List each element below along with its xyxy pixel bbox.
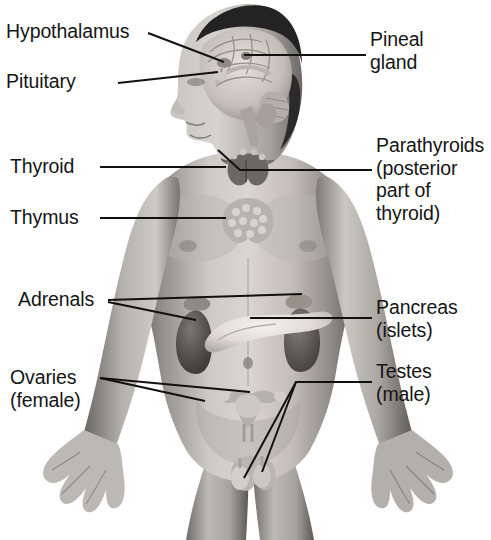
label-thyroid: Thyroid bbox=[10, 155, 74, 178]
label-testes: Testes (male) bbox=[376, 360, 432, 405]
label-pineal-gland: Pineal gland bbox=[370, 28, 424, 73]
label-ovaries: Ovaries (female) bbox=[10, 366, 81, 411]
leader-ovaries-branch-left bbox=[100, 378, 205, 401]
label-pancreas: Pancreas (islets) bbox=[376, 296, 458, 341]
leader-pituitary bbox=[118, 72, 218, 83]
leader-testes-branch-right bbox=[262, 382, 296, 472]
leader-adrenals-branch-left bbox=[108, 302, 196, 320]
label-parathyroids: Parathyroids (posterior part of thyroid) bbox=[376, 134, 484, 224]
leader-hypothalamus bbox=[148, 33, 224, 62]
leader-adrenals-branch-right bbox=[108, 294, 302, 300]
endocrine-system-diagram: Hypothalamus Pituitary Pineal gland Thyr… bbox=[0, 0, 491, 540]
leader-ovaries-branch-right bbox=[100, 378, 250, 392]
leader-parathyroids bbox=[218, 150, 372, 170]
leader-testes-branch-left bbox=[244, 382, 372, 478]
label-adrenals: Adrenals bbox=[18, 288, 94, 311]
label-hypothalamus: Hypothalamus bbox=[6, 20, 129, 43]
label-thymus: Thymus bbox=[10, 206, 79, 229]
label-pituitary: Pituitary bbox=[6, 70, 76, 93]
